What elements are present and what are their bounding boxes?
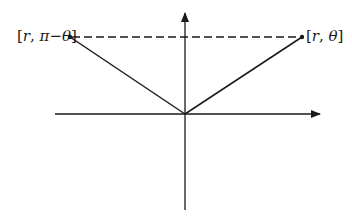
- bracket-close: ]: [338, 27, 344, 45]
- point-right: [300, 35, 304, 39]
- bracket-close: ]: [71, 27, 77, 45]
- radius-symbol: r: [312, 27, 319, 45]
- separator: ,: [30, 27, 40, 45]
- angle-expression: π−θ: [40, 27, 71, 45]
- radius-left: [70, 37, 185, 114]
- radius-symbol: r: [23, 27, 30, 45]
- label-point-left: [r, π−θ]: [17, 29, 77, 44]
- separator: ,: [319, 27, 329, 45]
- label-point-right: [r, θ]: [306, 29, 343, 44]
- angle-expression: θ: [329, 27, 338, 45]
- radius-right: [185, 37, 302, 114]
